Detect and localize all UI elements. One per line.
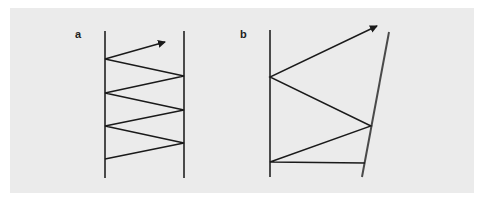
panel-b-tilted-mirror (362, 32, 389, 177)
panel-a-label: a (75, 28, 82, 40)
reflection-diagram: a b (0, 0, 492, 200)
panel-a-ray-path (105, 42, 184, 159)
panel-b: b (240, 26, 389, 177)
panel-b-ray-path (270, 26, 377, 163)
panel-b-label: b (240, 28, 247, 40)
panel-a: a (75, 28, 184, 178)
